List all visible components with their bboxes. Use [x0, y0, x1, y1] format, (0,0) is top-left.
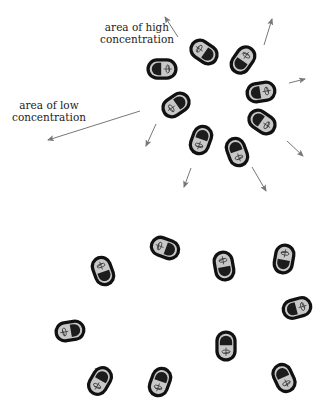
bacterium-cell: [215, 330, 236, 361]
diffusion-arrow: [264, 19, 272, 45]
bacterium-cell: [222, 134, 253, 171]
bacterium-cell: [211, 249, 237, 283]
bacterium-cell: [243, 104, 281, 139]
label-low-line1: area of low: [12, 99, 86, 111]
label-low-line2: concentration: [12, 111, 86, 123]
bacterium-cell: [225, 41, 260, 79]
diffusion-arrow: [184, 168, 191, 187]
low-concentration-cells: [53, 233, 315, 401]
diffusion-arrow: [287, 141, 303, 156]
bacterium-cell: [185, 34, 223, 69]
bacterium-cell: [157, 87, 195, 122]
bacterium-cell: [88, 253, 119, 290]
label-low-concentration: area of low concentration: [12, 99, 86, 123]
bacterium-cell: [186, 122, 217, 159]
high-concentration-cluster: [146, 34, 280, 170]
diffusion-arrow: [289, 79, 305, 83]
bacterium-cell: [244, 79, 278, 105]
bacterium-cell: [268, 359, 300, 396]
bacterium-cell: [279, 294, 315, 323]
label-high-line2: concentration: [100, 33, 174, 45]
label-high-line1: area of high: [100, 21, 174, 33]
label-high-concentration: area of high concentration: [100, 21, 174, 45]
bacterium-cell: [147, 233, 184, 264]
bacterium-cell: [83, 362, 117, 400]
diagram-canvas: area of high concentration area of low c…: [0, 0, 331, 416]
diagram-svg: [0, 0, 331, 416]
bacterium-cell: [146, 58, 177, 79]
diffusion-arrow: [146, 124, 156, 146]
bacterium-cell: [53, 318, 87, 344]
bacterium-cell: [271, 242, 297, 276]
bacterium-cell: [145, 364, 176, 401]
diffusion-arrow: [252, 167, 266, 191]
